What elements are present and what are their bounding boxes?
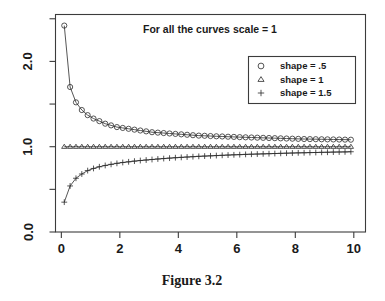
data-marker-plus [266,151,272,157]
data-marker-triangle [348,144,353,148]
data-marker-plus [178,154,184,160]
data-marker-triangle [319,144,324,148]
plot-frame [56,15,366,233]
data-marker-plus [132,158,138,164]
data-marker-triangle [85,144,90,148]
data-marker-plus [202,153,208,159]
data-marker-plus [126,159,132,165]
data-marker-triangle [144,144,149,148]
data-marker-plus [143,157,149,163]
data-marker-triangle [149,144,154,148]
data-marker-plus [190,154,196,160]
data-marker-triangle [97,144,102,148]
data-marker-plus [225,152,231,158]
data-marker-triangle [266,144,271,148]
data-marker-plus [237,152,243,158]
data-marker-plus [289,150,295,156]
data-marker-plus [219,152,225,158]
x-tick-label: 4 [175,241,183,256]
data-marker-triangle [190,144,195,148]
legend-label-0: shape = .5 [280,60,327,71]
data-marker-plus [284,150,290,156]
y-axis-ticks [50,19,56,232]
data-marker-plus [114,160,120,166]
data-marker-triangle [167,144,172,148]
data-marker-plus [85,168,91,174]
data-marker-plus [336,149,342,155]
chart-title: For all the curves scale = 1 [143,23,277,35]
data-marker-triangle [296,144,301,148]
data-marker-triangle [126,144,131,148]
data-marker-triangle [249,144,254,148]
data-marker-plus [272,151,278,157]
data-marker-triangle [313,144,318,148]
data-marker-plus [61,199,67,205]
data-marker-triangle [132,144,137,148]
data-marker-plus [249,151,255,157]
data-marker-triangle [73,144,78,148]
data-marker-plus [91,166,97,172]
legend-label-2: shape = 1.5 [280,87,332,98]
data-marker-triangle [79,144,84,148]
data-marker-plus [161,156,167,162]
data-marker-plus [149,157,155,163]
data-marker-plus [120,160,126,166]
data-marker-triangle [120,144,125,148]
data-marker-plus [301,150,307,156]
chart-canvas: 0.01.02.0 0246810 For all the curves sca… [0,0,385,301]
data-marker-triangle [179,144,184,148]
data-marker-plus [231,152,237,158]
data-marker-triangle [342,144,347,148]
data-marker-triangle [325,144,330,148]
data-marker-plus [213,153,219,159]
x-axis-ticks [61,232,353,238]
data-marker-plus [313,150,319,156]
data-marker-triangle [255,144,260,148]
data-marker-plus [208,153,214,159]
data-marker-triangle [231,144,236,148]
data-marker-triangle [114,144,119,148]
y-tick-label: 0.0 [21,223,36,241]
data-marker-plus [278,150,284,156]
data-marker-triangle [108,144,113,148]
data-marker-triangle [208,144,213,148]
data-marker-triangle [331,144,336,148]
data-marker-triangle [337,144,342,148]
data-marker-triangle [284,144,289,148]
data-marker-plus [295,150,301,156]
data-marker-plus [167,155,173,161]
data-marker-triangle [272,144,277,148]
x-tick-label: 2 [116,241,123,256]
data-marker-plus [137,158,143,164]
data-marker-triangle [261,144,266,148]
data-marker-plus [342,149,348,155]
data-marker-plus [243,151,249,157]
x-tick-label: 6 [233,241,240,256]
data-marker-plus [254,151,260,157]
data-marker-triangle [91,144,96,148]
x-axis-tick-labels: 0246810 [58,241,361,256]
data-marker-triangle [225,144,230,148]
x-tick-label: 0 [58,241,65,256]
data-marker-plus [102,163,108,169]
data-marker-triangle [220,144,225,148]
data-marker-plus [319,149,325,155]
data-marker-triangle [103,144,108,148]
figure-caption: Figure 3.2 [162,273,222,288]
data-marker-triangle [290,144,295,148]
figure-container: 0.01.02.0 0246810 For all the curves sca… [0,0,385,301]
data-marker-triangle [214,144,219,148]
data-marker-triangle [202,144,207,148]
data-marker-plus [325,149,331,155]
data-marker-triangle [301,144,306,148]
y-tick-label: 1.0 [21,138,36,156]
data-marker-triangle [184,144,189,148]
series-line [64,152,351,202]
data-marker-plus [196,153,202,159]
data-marker-triangle [68,144,73,148]
data-marker-plus [330,149,336,155]
data-marker-triangle [307,144,312,148]
data-marker-plus [184,154,190,160]
y-axis-tick-labels: 0.01.02.0 [21,52,36,241]
data-marker-plus [155,156,161,162]
